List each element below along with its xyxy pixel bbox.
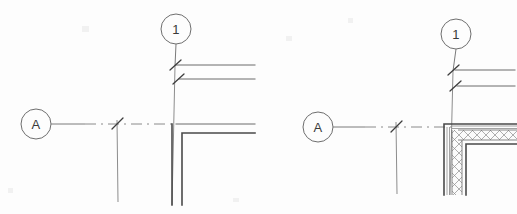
grid-bubble-label: 1	[172, 22, 179, 37]
cad-drawing-canvas: 1 A	[0, 0, 517, 214]
canvas-background	[0, 0, 517, 214]
grid-bubble-label: A	[32, 117, 41, 132]
wall-hatch-core-horizontal	[458, 130, 517, 140]
grid-bubble-label: A	[314, 120, 323, 135]
drawing-svg: 1 A	[0, 0, 517, 214]
grid-bubble-label: 1	[452, 27, 459, 42]
